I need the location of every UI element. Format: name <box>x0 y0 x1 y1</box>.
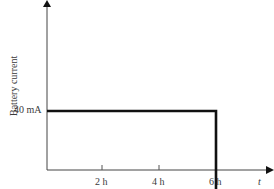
chart-plot <box>0 0 274 189</box>
battery-current-line <box>47 111 216 189</box>
y-tick-label-40ma: 40 mA <box>14 104 42 115</box>
x-axis-label: t <box>258 176 261 187</box>
x-tick-label-2h: 2 h <box>95 176 108 187</box>
x-tick-label-4h: 4 h <box>152 176 165 187</box>
x-tick-label-6h: 6 h <box>209 176 222 187</box>
x-axis-arrow-icon <box>266 166 274 174</box>
y-axis-arrow-icon <box>43 0 51 7</box>
